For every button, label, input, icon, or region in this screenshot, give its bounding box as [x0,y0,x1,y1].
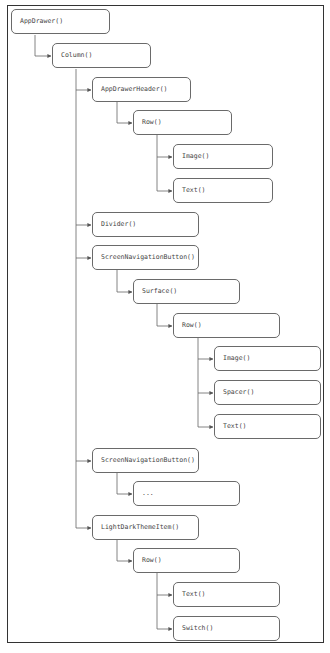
node-header-row: Row() [133,110,232,135]
node-theme-text: Text() [173,582,280,607]
node-row-image: Image() [214,346,321,371]
node-header-text: Text() [173,178,273,203]
node-ellipsis: ... [133,481,240,506]
node-theme-switch: Switch() [173,616,280,641]
node-header-image: Image() [173,144,273,169]
node-surface-row: Row() [173,313,280,338]
node-screen-navigation-button: ScreenNavigationButton() [92,245,199,270]
node-screen-navigation-button-2: ScreenNavigationButton() [92,448,199,473]
node-row-spacer: Spacer() [214,380,321,405]
node-app-drawer: AppDrawer() [11,9,110,34]
node-divider: Divider() [92,212,199,237]
node-theme-row: Row() [133,548,240,573]
node-row-text: Text() [214,414,321,439]
node-app-drawer-header: AppDrawerHeader() [92,77,191,102]
node-light-dark-theme-item: LightDarkThemeItem() [92,515,199,540]
node-surface: Surface() [133,279,240,304]
node-column: Column() [52,43,151,68]
